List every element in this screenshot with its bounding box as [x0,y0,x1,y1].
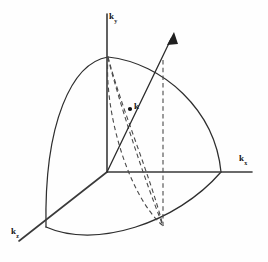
octant-arc-xy [108,57,221,172]
k-x-axis-label-subscript: x [244,160,247,166]
k-z-axis-label: kz [11,227,19,238]
meridian-dashed-arc [108,57,163,226]
k-x-axis-label: kx [239,154,247,165]
projection-dashed-arc [108,58,163,226]
octant-arc-zx [46,172,221,235]
wave-vector-k-arrowhead [167,32,178,45]
k-y-axis-label-subscript: y [114,18,117,24]
k-z-axis-label-subscript: z [16,233,19,239]
octant-arc-yz [46,57,108,227]
k-surface-point-dot [128,107,132,111]
figure-canvas [0,0,268,262]
k-z-axis-line [19,172,107,241]
k-y-axis-label: ky [109,12,117,23]
kspace-octant-figure: ky kx kz k [0,0,268,262]
wave-vector-k-label: k [134,102,139,111]
